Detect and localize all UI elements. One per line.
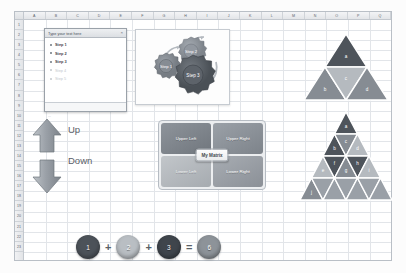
svg-text:Step 1: Step 1 [160, 64, 173, 69]
pyramid-cell-label: e [322, 168, 325, 173]
row-header-10[interactable]: 10 [15, 111, 23, 121]
row-header-6[interactable]: 6 [15, 70, 23, 80]
gear-smartart-frame[interactable]: Step 1 Step 2 Step 3 [135, 29, 230, 105]
row-header-3[interactable]: 3 [15, 40, 23, 50]
row-header-4[interactable]: 4 [15, 50, 23, 60]
row-header-7[interactable]: 7 [15, 80, 23, 90]
pyramid-cell-label: b [324, 87, 327, 92]
row-header-18[interactable]: 18 [15, 191, 23, 201]
equation-row[interactable]: 1+2+3=6 [76, 232, 256, 262]
gridline-horizontal [24, 212, 391, 213]
text-pane-item-2[interactable]: Step 2 [50, 51, 123, 56]
pyramid-cell-label: b [333, 146, 336, 151]
row-header-column[interactable]: 1234567891011121314151617181920212223 [15, 20, 24, 260]
equation-operator: + [145, 241, 151, 253]
down-arrow-icon [33, 160, 61, 193]
bullet-icon [50, 69, 52, 71]
column-header-P[interactable]: P [348, 12, 370, 19]
text-pane-list[interactable]: Step 1Step 2Step 3Step 4Step 5 [45, 38, 126, 81]
row-header-21[interactable]: 21 [15, 222, 23, 232]
column-header-C[interactable]: C [67, 12, 89, 19]
pyramid-cell[interactable] [335, 112, 358, 134]
pyramid-cell-label: a [345, 124, 348, 129]
column-header-J[interactable]: J [218, 12, 240, 19]
pyramid-cell-label: i [368, 168, 369, 173]
pyramid-cell-label: h [356, 161, 359, 166]
up-down-arrow-group[interactable] [30, 118, 64, 194]
select-all-corner[interactable] [15, 12, 24, 19]
row-header-14[interactable]: 14 [15, 151, 23, 161]
pyramid-cell-label: j [310, 190, 312, 195]
svg-text:Step 3: Step 3 [186, 73, 200, 78]
row-header-9[interactable]: 9 [15, 101, 23, 111]
close-icon[interactable]: × [120, 31, 123, 35]
column-header-F[interactable]: F [132, 12, 154, 19]
column-header-K[interactable]: K [240, 12, 262, 19]
smartart-text-pane[interactable]: Type your text here × Step 1Step 2Step 3… [44, 28, 127, 112]
column-header-M[interactable]: M [283, 12, 305, 19]
text-pane-title-bar: Type your text here × [45, 29, 126, 38]
text-pane-item-3[interactable]: Step 3 [50, 59, 123, 64]
bullet-icon [50, 44, 52, 46]
row-header-1[interactable]: 1 [15, 20, 23, 30]
row-header-11[interactable]: 11 [15, 121, 23, 131]
text-pane-item-4[interactable]: Step 4 [50, 68, 123, 73]
column-header-H[interactable]: H [175, 12, 197, 19]
row-header-5[interactable]: 5 [15, 60, 23, 70]
column-header-I[interactable]: I [197, 12, 219, 19]
bullet-icon [50, 52, 52, 54]
text-pane-item-label: Step 2 [55, 51, 67, 56]
up-label: Up [68, 124, 80, 135]
text-pane-title: Type your text here [48, 31, 120, 36]
svg-text:Step 2: Step 2 [185, 49, 198, 54]
column-header-E[interactable]: E [110, 12, 132, 19]
text-pane-item-label: Step 1 [55, 42, 67, 47]
gridline-horizontal [24, 222, 391, 223]
row-header-12[interactable]: 12 [15, 131, 23, 141]
text-pane-item-label: Step 4 [55, 68, 66, 73]
row-header-19[interactable]: 19 [15, 201, 23, 211]
text-pane-item-5[interactable]: Step 5 [50, 76, 123, 81]
column-header-D[interactable]: D [89, 12, 111, 19]
row-header-16[interactable]: 16 [15, 171, 23, 181]
row-header-23[interactable]: 23 [15, 242, 23, 252]
pyramid-cell-label: g [345, 168, 348, 173]
column-header-Q[interactable]: Q [370, 12, 392, 19]
pyramid-small-shapes: abcd [300, 30, 392, 104]
row-header-15[interactable]: 15 [15, 161, 23, 171]
column-header-B[interactable]: B [46, 12, 68, 19]
column-header-L[interactable]: L [262, 12, 284, 19]
column-header-row[interactable]: ABCDEFGHIJKLMNOPQ [15, 12, 391, 20]
pyramid-cell-label: d [366, 87, 369, 92]
pyramid-cell-label: d [356, 146, 359, 151]
text-pane-item-1[interactable]: Step 1 [50, 42, 123, 47]
pyramid-small-smartart[interactable]: abcd [300, 30, 392, 104]
pyramid-cell[interactable] [325, 34, 367, 67]
row-header-13[interactable]: 13 [15, 141, 23, 151]
gear-diagram: Step 1 Step 2 Step 3 [136, 30, 229, 104]
excel-worksheet-canvas: ABCDEFGHIJKLMNOPQ 1234567891011121314151… [0, 0, 406, 273]
equation-operator: = [186, 241, 192, 253]
matrix-center-label[interactable]: My Matrix [195, 149, 228, 162]
bullet-icon [50, 61, 52, 63]
matrix-smartart[interactable]: Upper Left Upper Right Lower Left Lower … [158, 120, 266, 190]
row-header-2[interactable]: 2 [15, 30, 23, 40]
equation-circle[interactable]: 1 [76, 235, 100, 259]
row-header-22[interactable]: 22 [15, 232, 23, 242]
equation-circle[interactable]: 3 [157, 235, 181, 259]
column-header-A[interactable]: A [24, 12, 46, 19]
column-header-N[interactable]: N [305, 12, 327, 19]
arrow-shapes [30, 118, 64, 194]
text-pane-footer: ... [45, 102, 126, 111]
equation-circle[interactable]: 6 [197, 235, 221, 259]
up-arrow-icon [33, 119, 61, 152]
row-header-8[interactable]: 8 [15, 91, 23, 101]
equation-operator: + [105, 241, 111, 253]
column-header-G[interactable]: G [154, 12, 176, 19]
equation-circle[interactable]: 2 [116, 235, 140, 259]
pyramid-large-smartart[interactable]: abcdefghij [296, 108, 396, 204]
column-header-O[interactable]: O [326, 12, 348, 19]
down-label: Down [68, 155, 92, 166]
row-header-17[interactable]: 17 [15, 181, 23, 191]
row-header-20[interactable]: 20 [15, 211, 23, 221]
